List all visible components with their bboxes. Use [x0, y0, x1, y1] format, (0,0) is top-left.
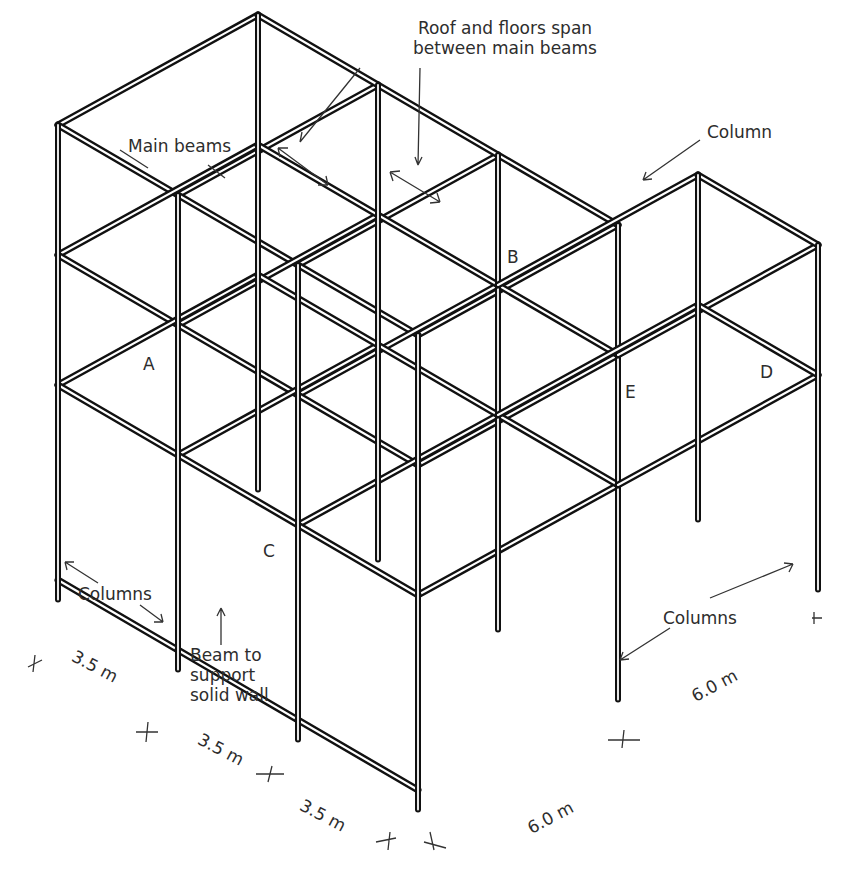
frame-member-highlight [618, 375, 818, 485]
frame-member-highlight [698, 305, 818, 375]
point-label-e: E [625, 382, 636, 402]
beam-to-support-line3: solid wall [190, 685, 290, 705]
frame-member-highlight [58, 145, 258, 255]
frame-member-highlight [618, 245, 818, 355]
frame-member-highlight [498, 175, 698, 285]
frame-member-highlight [498, 305, 698, 415]
beam-to-support-label: Beam to support solid wall [190, 645, 290, 705]
point-label-c: C [263, 541, 275, 561]
beam-to-support-line2: support [190, 665, 290, 685]
span-label-line1: Roof and floors span [410, 18, 600, 38]
beam-to-support-line1: Beam to [190, 645, 290, 665]
frame-member-highlight [58, 15, 258, 125]
main-beams-label: Main beams [128, 136, 231, 156]
frame-member-highlight [418, 485, 618, 595]
frame-member-highlight [418, 225, 618, 335]
columns-right-label: Columns [663, 608, 737, 628]
frame-member-highlight [298, 285, 498, 395]
frame-member-highlight [178, 345, 378, 455]
frame-member-highlight [418, 355, 618, 465]
point-label-d: D [760, 362, 773, 382]
column-label: Column [707, 122, 772, 142]
point-label-a: A [143, 354, 155, 374]
frame-member-highlight [58, 275, 258, 385]
frame-member-highlight [698, 175, 818, 245]
span-label-line2: between main beams [410, 38, 600, 58]
frame-member-highlight [298, 720, 418, 790]
columns-left-label: Columns [78, 584, 152, 604]
point-label-b: B [507, 247, 519, 267]
frame-member-highlight [178, 215, 378, 325]
frame-member-highlight [298, 415, 498, 525]
span-label: Roof and floors span between main beams [410, 18, 600, 58]
